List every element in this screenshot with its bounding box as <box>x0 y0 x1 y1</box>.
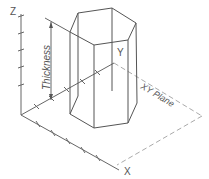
axis-ticks <box>18 15 100 161</box>
hexagonal-prism <box>70 8 137 128</box>
x-axis <box>21 115 119 170</box>
y-axis-label: Y <box>117 47 124 58</box>
z-axis-label: Z <box>10 6 16 17</box>
xy-plane-label: XY Plane <box>138 81 176 109</box>
xy-plane-outline <box>114 63 202 165</box>
diagram-canvas: Z Y X Thickness XY Plane <box>0 0 209 179</box>
x-axis-label: X <box>124 166 131 177</box>
y-axis <box>21 63 114 115</box>
prism-bottom-face <box>70 103 137 128</box>
thickness-label: Thickness <box>41 45 52 90</box>
prism-top-face <box>70 8 136 45</box>
